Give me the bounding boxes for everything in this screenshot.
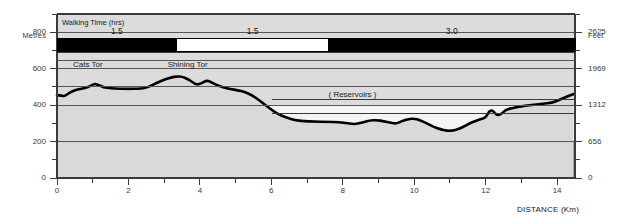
walking-time-label-2: 1.5 (233, 26, 273, 36)
left-tick-label-200: 200 (6, 137, 46, 146)
x-axis-title: DISTANCE (Km) (517, 205, 579, 214)
x-tick-label-0: 0 (45, 186, 69, 195)
left-tick-label-800: 800 (6, 27, 46, 36)
right-tick-label-2625: 2625 (588, 27, 628, 36)
left-tick-label-0: 0 (6, 173, 46, 182)
walking-time-segment-3 (329, 39, 575, 52)
left-tick-label-400: 400 (6, 100, 46, 109)
profile-plot-svg (0, 0, 633, 224)
x-tick-label-6: 6 (259, 186, 283, 195)
annotation-reservoirs: ( Reservoirs ) (329, 90, 377, 99)
left-axis-ticks (50, 14, 57, 178)
right-tick-label-1969: 1969 (588, 64, 628, 73)
annotation-shining-tor: Shining Tor (168, 60, 208, 69)
x-tick-label-12: 12 (474, 186, 498, 195)
walking-time-segment-1 (57, 39, 177, 52)
annotation-cats-tor: Cats Tor (73, 60, 103, 69)
right-tick-label-0: 0 (588, 173, 628, 182)
right-tick-label-1312: 1312 (588, 100, 628, 109)
left-tick-label-600: 600 (6, 64, 46, 73)
x-tick-label-2: 2 (116, 186, 140, 195)
x-tick-label-14: 14 (545, 186, 569, 195)
walking-time-label-3: 3.0 (432, 26, 472, 36)
right-tick-label-656: 656 (588, 137, 628, 146)
right-axis-ticks (575, 14, 582, 178)
walking-time-segment-2 (177, 39, 329, 52)
x-tick-label-8: 8 (331, 186, 355, 195)
x-tick-label-10: 10 (402, 186, 426, 195)
bottom-axis-ticks (57, 178, 557, 185)
walking-time-label-1: 1.5 (97, 26, 137, 36)
x-tick-label-4: 4 (188, 186, 212, 195)
walking-time-bar (57, 39, 575, 52)
elevation-profile-chart: Metres Feet 0200400600800 06561312196926… (0, 0, 633, 224)
